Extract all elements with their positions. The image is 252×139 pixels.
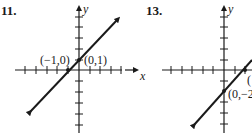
problem-number-11: 11. [1, 3, 17, 18]
point-0-neg2 [222, 89, 226, 93]
graph-11: 11. y (−1,0) (0,1) x [1, 2, 146, 133]
point-0-1 [77, 58, 81, 62]
x-axis-label-11: x [139, 69, 146, 83]
graph-13: 13. y ( (0,−2 [146, 2, 252, 133]
point-label-2-0: ( [247, 73, 251, 87]
point-label-0-neg2: (0,−2 [228, 87, 252, 101]
point-label-neg1-0: (−1,0) [40, 53, 70, 67]
point-2-0 [243, 68, 247, 72]
figure: 11. y (−1,0) (0,1) x 13. [0, 0, 252, 139]
y-axis-label-13: y [227, 2, 234, 16]
y-axis-label-11: y [82, 2, 89, 16]
point-label-0-1: (0,1) [84, 53, 107, 67]
point-neg1-0 [66, 68, 70, 72]
problem-number-13: 13. [146, 3, 162, 18]
